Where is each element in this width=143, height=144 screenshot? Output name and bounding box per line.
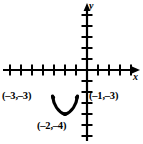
curve-endpoint-right bbox=[75, 96, 79, 100]
point-label-left: (–3,–3) bbox=[2, 91, 31, 102]
curve-vertex-dot bbox=[63, 112, 67, 116]
curve-endpoint-left bbox=[51, 96, 55, 100]
point-label-right: (–1,–3) bbox=[89, 91, 118, 102]
x-axis-label: x bbox=[133, 72, 138, 82]
coordinate-graph-figure: y x (–3,–3) (–1,–3) (–2,–4) bbox=[0, 0, 143, 144]
plot-svg bbox=[0, 0, 143, 144]
point-label-vertex: (–2,–4) bbox=[37, 121, 66, 132]
y-axis-label: y bbox=[89, 1, 93, 11]
parabola-curve bbox=[53, 96, 78, 115]
